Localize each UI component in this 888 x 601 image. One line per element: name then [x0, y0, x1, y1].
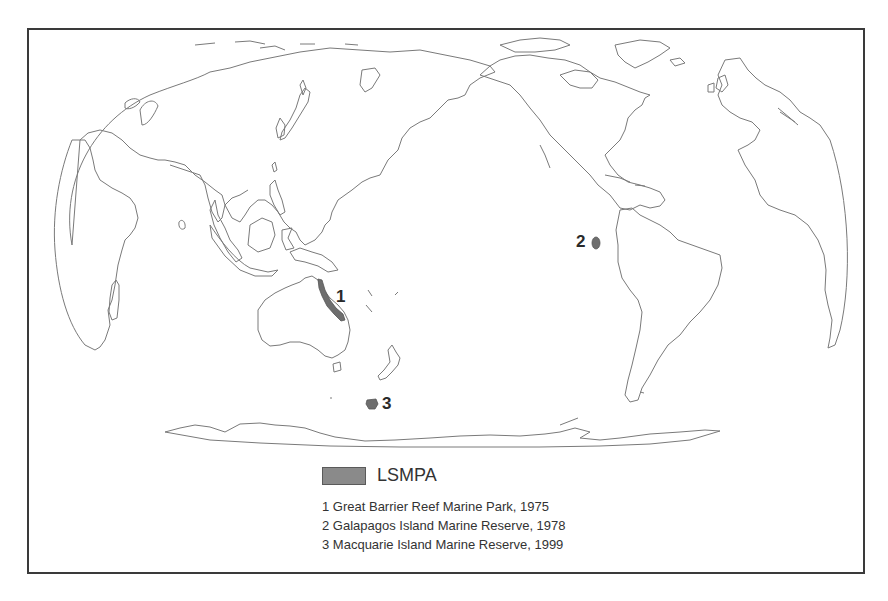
mpa-features — [318, 237, 600, 409]
legend-item: 3 Macquarie Island Marine Reserve, 1999 — [322, 535, 566, 554]
galapagos-area[interactable] — [592, 237, 600, 249]
legend-item: 1 Great Barrier Reef Marine Park, 1975 — [322, 497, 566, 516]
lsmpa-legend-swatch — [322, 467, 366, 485]
marker-label-2: 2 — [576, 233, 585, 250]
new-zealand-coastline — [330, 290, 400, 398]
macquarie-area[interactable] — [366, 399, 378, 409]
europe-africa-east-coastline — [708, 58, 847, 348]
marker-label-3: 3 — [382, 395, 391, 412]
antarctica-coastline — [165, 418, 720, 447]
legend-title: LSMPA — [377, 465, 437, 486]
legend-item: 2 Galapagos Island Marine Reserve, 1978 — [322, 516, 566, 535]
eurasia-africa-coastline — [54, 41, 495, 350]
legend-list: 1 Great Barrier Reef Marine Park, 1975 2… — [322, 497, 566, 554]
north-america-coastline — [480, 38, 685, 210]
marker-label-1: 1 — [336, 288, 345, 305]
south-america-coastline — [616, 208, 722, 402]
